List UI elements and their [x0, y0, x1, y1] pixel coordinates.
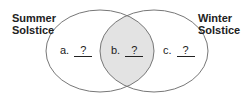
region-b: b.?: [111, 44, 143, 57]
answer-blank[interactable]: ?: [177, 45, 195, 57]
label-line: Winter: [198, 12, 240, 24]
region-letter: b.: [111, 44, 120, 56]
summer-solstice-label: Summer Solstice: [12, 12, 56, 36]
answer-blank[interactable]: ?: [74, 45, 92, 57]
label-line: Solstice: [198, 24, 240, 36]
region-c: c.?: [163, 44, 195, 57]
label-line: Summer: [12, 12, 56, 24]
winter-solstice-label: Winter Solstice: [198, 12, 240, 36]
label-line: Solstice: [12, 24, 56, 36]
region-letter: a.: [60, 44, 69, 56]
region-letter: c.: [163, 44, 172, 56]
answer-blank[interactable]: ?: [125, 45, 143, 57]
region-a: a.?: [60, 44, 92, 57]
